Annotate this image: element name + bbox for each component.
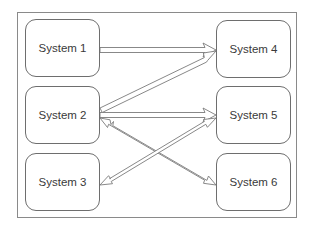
node-label: System 2 — [39, 109, 87, 121]
arrow-s2-to-s4 — [100, 51, 216, 113]
arrow-s2-to-s5 — [100, 108, 216, 122]
node-label: System 6 — [230, 176, 278, 188]
node-system-1: System 1 — [25, 19, 100, 77]
node-system-3: System 3 — [25, 153, 100, 211]
node-system-5: System 5 — [216, 86, 291, 144]
node-system-4: System 4 — [216, 20, 291, 78]
node-label: System 1 — [39, 42, 87, 54]
node-label: System 3 — [39, 176, 87, 188]
node-label: System 4 — [230, 43, 278, 55]
node-system-2: System 2 — [25, 86, 100, 144]
node-system-6: System 6 — [216, 153, 291, 211]
arrow-s1-to-s4 — [100, 43, 216, 57]
node-label: System 5 — [230, 109, 278, 121]
